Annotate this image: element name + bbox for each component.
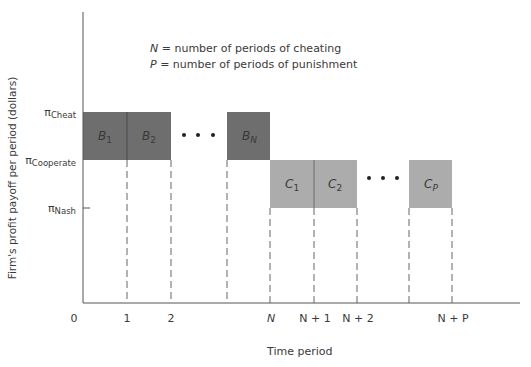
- legend-note-n: N = number of periods of cheating: [150, 42, 341, 55]
- ellipsis-cheat: [182, 133, 215, 137]
- y-label-cheat: πCheat: [44, 106, 76, 120]
- y-axis-label: Firm's profit payoff per period (dollars…: [6, 77, 18, 280]
- legend-note-p: P = number of periods of punishment: [150, 58, 358, 71]
- x-tick-np: N + P: [437, 312, 468, 325]
- payoff-diagram: N = number of periods of cheating P = nu…: [0, 0, 531, 367]
- ellipsis-punish: [367, 176, 399, 180]
- x-tick-n1: N + 1: [299, 312, 330, 325]
- y-label-cooperate: πCooperate: [25, 154, 76, 168]
- x-tick-0: 0: [71, 312, 78, 325]
- x-tick-n: N: [267, 312, 275, 325]
- x-tick-1: 1: [124, 312, 131, 325]
- x-axis-label: Time period: [266, 345, 332, 358]
- x-tick-2: 2: [168, 312, 175, 325]
- x-tick-n2: N + 2: [342, 312, 373, 325]
- y-label-nash: πNash: [48, 202, 76, 216]
